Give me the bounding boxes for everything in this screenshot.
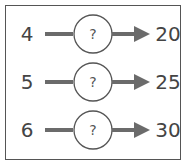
unknown-operation: ? xyxy=(73,110,113,150)
unknown-operation: ? xyxy=(73,14,113,54)
unknown-operation: ? xyxy=(73,62,113,102)
function-row-2: 5 ? 25 xyxy=(0,62,189,102)
function-row-1: 4 ? 20 xyxy=(0,14,189,54)
output-value: 25 xyxy=(150,62,186,102)
function-row-3: 6 ? 30 xyxy=(0,110,189,150)
output-value: 30 xyxy=(150,110,186,150)
output-value: 20 xyxy=(150,14,186,54)
